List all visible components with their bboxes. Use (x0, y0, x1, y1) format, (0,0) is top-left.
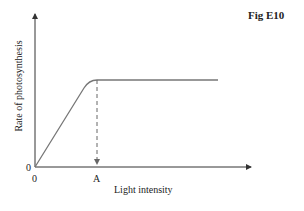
x-marker-a-label: A (93, 173, 101, 184)
rate-curve (35, 80, 218, 167)
y-axis-label: Rate of photosynthesis (13, 40, 24, 131)
y-origin-label: 0 (26, 162, 31, 173)
photosynthesis-graph: 0 0 A Light intensity Rate of photosynth… (0, 0, 304, 211)
x-origin-label: 0 (32, 173, 37, 184)
x-axis-label: Light intensity (114, 184, 173, 195)
